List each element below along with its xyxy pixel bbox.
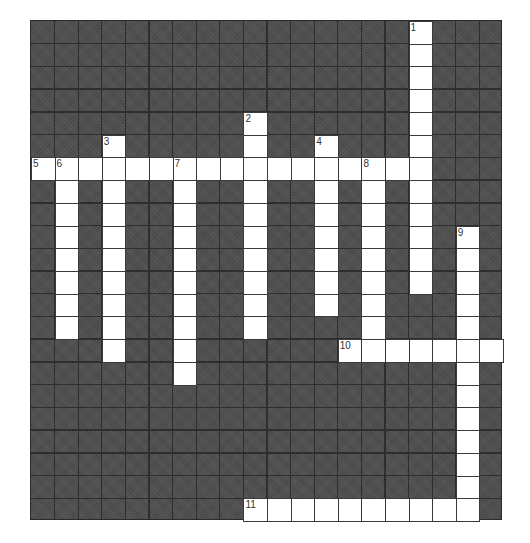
- answer-cell[interactable]: [102, 271, 127, 295]
- answer-cell[interactable]: [456, 316, 481, 340]
- answer-cell[interactable]: [102, 226, 127, 250]
- answer-cell[interactable]: [456, 339, 481, 363]
- answer-cell[interactable]: [314, 294, 339, 318]
- answer-cell[interactable]: [385, 339, 410, 363]
- answer-cell[interactable]: [409, 66, 434, 90]
- answer-cell[interactable]: [361, 498, 386, 522]
- answer-cell[interactable]: [173, 203, 198, 227]
- answer-cell[interactable]: [409, 112, 434, 136]
- answer-cell[interactable]: [78, 157, 103, 181]
- answer-cell[interactable]: [173, 362, 198, 386]
- answer-cell[interactable]: [385, 498, 410, 522]
- answer-cell[interactable]: [361, 226, 386, 250]
- answer-cell[interactable]: [432, 498, 457, 522]
- answer-cell[interactable]: [409, 203, 434, 227]
- answer-cell[interactable]: [456, 294, 481, 318]
- answer-cell[interactable]: [267, 157, 292, 181]
- answer-cell[interactable]: [243, 226, 268, 250]
- clue-number-6: 6: [57, 158, 63, 169]
- answer-cell[interactable]: [102, 316, 127, 340]
- answer-cell[interactable]: [55, 226, 80, 250]
- answer-cell[interactable]: [409, 271, 434, 295]
- answer-cell[interactable]: [149, 157, 174, 181]
- answer-cell[interactable]: [291, 157, 316, 181]
- answer-cell[interactable]: [314, 226, 339, 250]
- answer-cell[interactable]: [125, 157, 150, 181]
- answer-cell[interactable]: [409, 339, 434, 363]
- answer-cell[interactable]: [267, 498, 292, 522]
- answer-cell[interactable]: [55, 180, 80, 204]
- answer-cell[interactable]: [456, 476, 481, 500]
- answer-cell[interactable]: [456, 271, 481, 295]
- answer-cell[interactable]: [432, 339, 457, 363]
- answer-cell[interactable]: [314, 180, 339, 204]
- clue-number-10: 10: [340, 340, 351, 351]
- crossword-grid: 1234567891011: [30, 20, 502, 520]
- clue-number-7: 7: [175, 158, 181, 169]
- answer-cell[interactable]: [314, 157, 339, 181]
- answer-cell[interactable]: [479, 339, 504, 363]
- answer-cell[interactable]: [361, 271, 386, 295]
- clue-number-5: 5: [33, 158, 39, 169]
- answer-cell[interactable]: [196, 157, 221, 181]
- answer-cell[interactable]: [456, 453, 481, 477]
- answer-cell[interactable]: [102, 157, 127, 181]
- answer-cell[interactable]: [409, 89, 434, 113]
- answer-cell[interactable]: [173, 226, 198, 250]
- answer-cell[interactable]: [55, 271, 80, 295]
- answer-cell[interactable]: [173, 294, 198, 318]
- answer-cell[interactable]: [220, 157, 245, 181]
- answer-cell[interactable]: [55, 294, 80, 318]
- answer-cell[interactable]: [173, 316, 198, 340]
- answer-cell[interactable]: [55, 248, 80, 272]
- answer-cell[interactable]: [409, 157, 434, 181]
- clue-number-11: 11: [245, 499, 255, 510]
- answer-cell[interactable]: [291, 498, 316, 522]
- grid-line-horizontal: [31, 475, 501, 476]
- answer-cell[interactable]: [338, 498, 363, 522]
- answer-cell[interactable]: [102, 248, 127, 272]
- answer-cell[interactable]: [456, 248, 481, 272]
- answer-cell[interactable]: [314, 203, 339, 227]
- answer-cell[interactable]: [243, 316, 268, 340]
- answer-cell[interactable]: [361, 180, 386, 204]
- answer-cell[interactable]: [385, 157, 410, 181]
- answer-cell[interactable]: [314, 271, 339, 295]
- answer-cell[interactable]: [361, 294, 386, 318]
- answer-cell[interactable]: [314, 498, 339, 522]
- answer-cell[interactable]: [409, 180, 434, 204]
- answer-cell[interactable]: [409, 226, 434, 250]
- answer-cell[interactable]: [102, 339, 127, 363]
- answer-cell[interactable]: [338, 157, 363, 181]
- answer-cell[interactable]: [243, 180, 268, 204]
- answer-cell[interactable]: [55, 316, 80, 340]
- answer-cell[interactable]: [243, 157, 268, 181]
- answer-cell[interactable]: [243, 294, 268, 318]
- answer-cell[interactable]: [173, 180, 198, 204]
- answer-cell[interactable]: [55, 203, 80, 227]
- answer-cell[interactable]: [409, 44, 434, 68]
- answer-cell[interactable]: [409, 135, 434, 159]
- answer-cell[interactable]: [456, 430, 481, 454]
- answer-cell[interactable]: [456, 498, 481, 522]
- answer-cell[interactable]: [409, 248, 434, 272]
- answer-cell[interactable]: [361, 316, 386, 340]
- answer-cell[interactable]: [173, 248, 198, 272]
- answer-cell[interactable]: [243, 135, 268, 159]
- answer-cell[interactable]: [456, 385, 481, 409]
- answer-cell[interactable]: [456, 362, 481, 386]
- answer-cell[interactable]: [102, 180, 127, 204]
- answer-cell[interactable]: [173, 271, 198, 295]
- answer-cell[interactable]: [102, 294, 127, 318]
- answer-cell[interactable]: [173, 339, 198, 363]
- answer-cell[interactable]: [243, 271, 268, 295]
- answer-cell[interactable]: [102, 203, 127, 227]
- answer-cell[interactable]: [314, 248, 339, 272]
- answer-cell[interactable]: [361, 248, 386, 272]
- answer-cell[interactable]: [361, 339, 386, 363]
- answer-cell[interactable]: [456, 407, 481, 431]
- answer-cell[interactable]: [243, 248, 268, 272]
- answer-cell[interactable]: [361, 203, 386, 227]
- answer-cell[interactable]: [409, 498, 434, 522]
- answer-cell[interactable]: [243, 203, 268, 227]
